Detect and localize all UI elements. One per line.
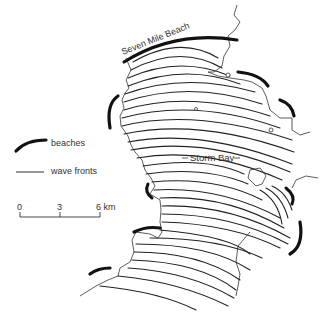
scale-tick-6: 6 km [96,202,116,212]
legend-beaches-label: beaches [51,138,85,148]
beach-mid-west [147,184,152,198]
beach-e-2 [290,222,301,254]
beach-west [109,96,118,128]
coastline [80,5,318,296]
beach-e-1 [286,188,293,204]
legend-beach-symbol [16,140,46,151]
beach-sw-1 [134,228,160,233]
scale-tick-0: 0 [17,202,22,212]
wave-refraction-map: Seven Mile Beach Storm Bay 0 3 6 km [0,0,324,318]
beach-ne-1 [238,72,268,86]
scale-tick-3: 3 [57,202,62,212]
beach-ne-2 [280,100,294,116]
legend-wave-fronts-label: wave fronts [51,166,97,176]
storm-bay-label: Storm Bay [190,152,235,163]
beach-sw-2 [90,268,110,274]
scale-bar [20,212,100,217]
